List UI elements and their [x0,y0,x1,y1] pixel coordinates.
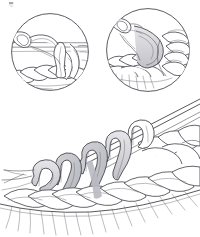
illustration-root [0,0,200,237]
illustration-canvas [0,0,200,237]
